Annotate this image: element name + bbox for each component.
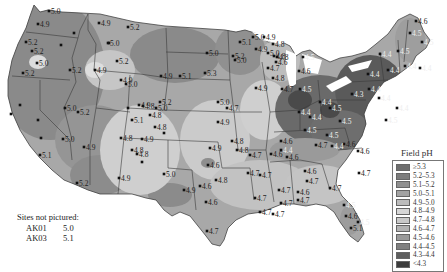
station — [37, 119, 40, 122]
station-dot — [231, 140, 234, 143]
station: 4.7 — [358, 169, 371, 178]
legend-item: 4.4–4.5 — [396, 242, 441, 251]
station-value: 5.0 — [110, 39, 120, 48]
station-dot — [31, 50, 34, 53]
site-row-ak03: AK03 5.1 — [17, 233, 79, 244]
station-value: 4.5 — [302, 85, 312, 94]
legend-swatch — [396, 243, 410, 250]
station-value: 5.0 — [39, 59, 49, 68]
station: 4.4 — [419, 64, 432, 73]
station-dot — [350, 227, 353, 230]
station-dot — [179, 75, 182, 78]
station-value: 4.4 — [382, 50, 392, 59]
station-dot — [138, 104, 141, 107]
station-dot — [421, 41, 424, 44]
station-dot — [351, 93, 354, 96]
station-dot — [215, 179, 218, 182]
legend-title: Field pH — [390, 148, 444, 158]
station-value: 4.8 — [152, 111, 162, 120]
station-value: 5.2 — [28, 38, 38, 47]
station-value: 5.2 — [72, 66, 82, 75]
station-dot — [127, 107, 130, 110]
station-value: 4.6 — [283, 137, 293, 146]
legend-swatch — [396, 190, 410, 197]
station-dot — [298, 111, 301, 114]
station-value: 4.8 — [234, 137, 244, 146]
legend-item: 4.8–4.9 — [396, 207, 441, 216]
station-value: 4.9 — [212, 144, 222, 153]
station-value: 4.6 — [346, 140, 356, 149]
station-value: 5.1 — [242, 38, 252, 47]
station-dot — [304, 129, 307, 132]
legend-item: 4.5–4.6 — [396, 233, 441, 242]
station-value: 5.0 — [51, 7, 61, 16]
station — [10, 113, 13, 116]
station-dot — [396, 107, 399, 110]
station-value: 4.9 — [97, 66, 107, 75]
legend-swatch — [396, 208, 410, 215]
station-dot — [183, 189, 186, 192]
station-dot — [278, 189, 281, 192]
station-value: 4.6 — [301, 67, 311, 76]
legend-swatch — [396, 181, 410, 188]
station-value: 4.7 — [309, 177, 319, 186]
legend-swatch — [396, 217, 410, 224]
station-dot — [247, 172, 250, 175]
station-value: 4.5 — [305, 53, 315, 62]
station-dot — [286, 156, 289, 159]
station-dot — [131, 149, 134, 152]
station-dot — [358, 172, 361, 175]
station-value: 4.4 — [301, 108, 311, 117]
station-dot — [304, 170, 307, 173]
station-dot — [254, 197, 257, 200]
station-value: 4.4 — [381, 94, 391, 103]
station-dot — [297, 199, 300, 202]
station-value: 5.0 — [237, 56, 247, 65]
station-value: 4.9 — [144, 135, 154, 144]
station-value: 5.1 — [182, 72, 192, 81]
station-dot — [19, 104, 22, 107]
station-dot — [397, 50, 400, 53]
legend-label: 5.2–5.3 — [413, 172, 435, 180]
legend-label: 4.4–4.5 — [413, 243, 435, 251]
legend-label: 4.5–4.6 — [413, 234, 435, 242]
station-value: 4.7 — [252, 151, 262, 160]
station-dot — [272, 77, 275, 80]
station-dot — [249, 154, 252, 157]
station-value: 5.2 — [119, 57, 129, 66]
station-dot — [36, 62, 39, 65]
station-dot — [142, 105, 145, 108]
station-dot — [339, 120, 342, 123]
site-value: 5.1 — [63, 233, 74, 244]
station-dot — [280, 140, 283, 143]
site-value: 5.0 — [63, 223, 74, 234]
station-dot — [108, 42, 111, 45]
station-value: 4.8 — [275, 40, 285, 49]
station-value: 5.0 — [209, 49, 219, 58]
station-value: 4.6 — [289, 153, 299, 162]
station-value: 4.5 — [342, 117, 352, 126]
station-value: 4.7 — [281, 186, 291, 195]
station-dot — [94, 69, 97, 72]
station-dot — [236, 149, 239, 152]
legend-item: 5.1–5.2 — [396, 181, 441, 190]
station-dot — [368, 88, 371, 91]
legend-box: ≥5.35.2–5.35.1–5.25.0–5.14.9–5.04.8–4.94… — [392, 160, 444, 272]
station-value: 5.2 — [25, 69, 35, 78]
station-value: 4.8 — [275, 74, 285, 83]
station-dot — [255, 48, 258, 51]
station-dot — [207, 164, 210, 167]
station-value: 4.5 — [346, 201, 356, 210]
station-dot — [272, 213, 275, 216]
station-dot — [404, 65, 407, 68]
station-value: 4.8 — [123, 134, 133, 143]
station-value: 4.7 — [209, 227, 219, 236]
station-value: 4.7 — [361, 169, 371, 178]
station-value: 4.4 — [334, 142, 344, 151]
legend-swatch — [396, 225, 410, 232]
station: 4.5 — [385, 116, 398, 125]
legend-item: ≥5.3 — [396, 163, 441, 172]
station-value: 4.4 — [390, 66, 400, 75]
legend-swatch — [396, 234, 410, 241]
station-value: 4.7 — [318, 141, 328, 150]
